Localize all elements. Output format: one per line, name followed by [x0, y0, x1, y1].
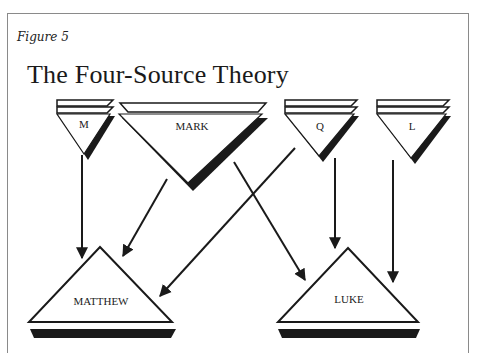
source-q-label: Q — [316, 120, 324, 132]
gospel-matthew: MATTHEW — [29, 247, 176, 338]
arrow-mark-to-luke — [234, 162, 305, 280]
arrow-mark-to-matthew — [123, 179, 167, 256]
source-l: L — [377, 100, 451, 164]
source-l-label: L — [409, 120, 416, 132]
gospel-luke: LUKE — [278, 248, 420, 338]
source-mark: MARK — [119, 103, 268, 191]
source-m: M — [57, 100, 115, 160]
source-q: Q — [285, 100, 359, 162]
gospel-matthew-label: MATTHEW — [74, 295, 130, 307]
gospel-luke-label: LUKE — [334, 293, 364, 305]
source-mark-label: MARK — [175, 120, 208, 132]
source-m-label: M — [79, 118, 89, 130]
